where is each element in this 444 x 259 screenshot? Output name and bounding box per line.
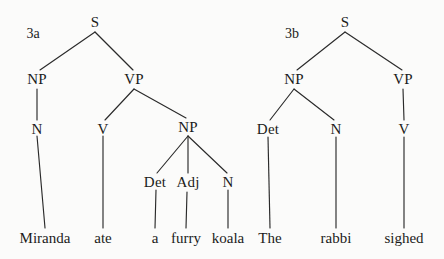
category-node-vp: VP: [393, 72, 413, 87]
leaf-word-a: a: [152, 231, 159, 246]
leaf-word-the: The: [258, 231, 281, 246]
tree-branch: [297, 32, 345, 70]
category-node-n: N: [222, 175, 233, 190]
leaf-word-koala: koala: [212, 231, 244, 246]
category-node-n: N: [31, 122, 42, 137]
tree-branch: [270, 89, 294, 120]
tree-branch: [37, 136, 45, 228]
tree-branch: [294, 89, 334, 120]
tree-branch: [188, 136, 227, 173]
category-node-s: S: [341, 15, 350, 30]
category-node-v: V: [398, 122, 409, 137]
leaf-word-ate: ate: [94, 231, 111, 246]
category-node-v: V: [97, 122, 108, 137]
tree-branch: [40, 32, 95, 70]
tree-branch: [105, 89, 134, 120]
category-node-np: NP: [178, 120, 198, 135]
category-node-det: Det: [257, 122, 279, 137]
tree-branch: [134, 89, 186, 118]
tree-branch: [345, 32, 402, 70]
syntax-tree-figure: 3aSNPVPNVNPDetAdjNMirandaateafurrykoala3…: [0, 0, 444, 259]
leaf-word-furry: furry: [171, 231, 201, 246]
category-node-np: NP: [27, 72, 47, 87]
leaf-word-rabbi: rabbi: [321, 231, 352, 246]
tree-branch: [186, 192, 187, 228]
tree-edges-layer: [0, 0, 444, 259]
category-node-np: NP: [284, 72, 304, 87]
tree-label-3a: 3a: [26, 27, 39, 41]
category-node-vp: VP: [124, 72, 144, 87]
tree-branch: [95, 32, 133, 70]
category-node-n: N: [330, 122, 341, 137]
category-node-s: S: [91, 15, 100, 30]
tree-branch: [157, 136, 188, 173]
tree-branch: [403, 89, 404, 120]
tree-branch: [268, 137, 270, 228]
tree-label-3b: 3b: [285, 27, 299, 41]
category-node-adj: Adj: [176, 175, 199, 190]
category-node-det: Det: [144, 175, 166, 190]
tree-branch: [155, 190, 156, 228]
leaf-word-miranda: Miranda: [20, 231, 71, 246]
leaf-word-sighed: sighed: [384, 231, 423, 246]
